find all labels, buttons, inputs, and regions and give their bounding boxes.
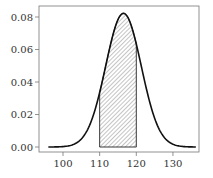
y-tick-label: 0.08 (11, 12, 33, 23)
normal-density-chart: 0.000.020.040.060.08 100110120130 (0, 0, 213, 178)
y-tick-label: 0.06 (11, 44, 33, 55)
y-tick-label: 0.00 (11, 142, 33, 153)
y-axis-ticks: 0.000.020.040.060.08 (11, 12, 39, 153)
x-tick-label: 100 (53, 158, 72, 169)
y-tick-label: 0.02 (11, 109, 33, 120)
shaded-area (100, 13, 137, 147)
x-tick-label: 130 (163, 158, 182, 169)
y-tick-label: 0.04 (11, 77, 33, 88)
x-axis-ticks: 100110120130 (53, 152, 182, 169)
x-tick-label: 110 (90, 158, 109, 169)
x-tick-label: 120 (127, 158, 146, 169)
